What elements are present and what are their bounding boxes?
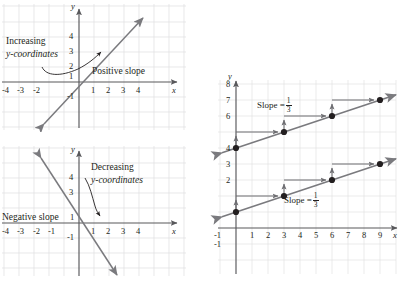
y-tick-2: 2 xyxy=(226,176,230,185)
positive-slope-figure: -4 -3 -2 1 2 3 4 4 3 2 1 -1 x y Increasi… xyxy=(0,0,200,132)
x-tick-3: 3 xyxy=(121,86,125,95)
negative-slope-svg xyxy=(0,136,200,281)
x-tick--3: -3 xyxy=(17,227,24,236)
positive-slope-annotation: Positive slope xyxy=(92,67,145,77)
x-tick--4: -4 xyxy=(2,227,9,236)
upper-step-2 xyxy=(284,116,326,130)
lower-line xyxy=(222,159,396,217)
slope-fraction-lower: 13 xyxy=(313,192,319,208)
slope-denominator-lower: 3 xyxy=(313,201,319,209)
x-tick-2: 2 xyxy=(106,227,110,236)
x-tick-3: 3 xyxy=(282,231,286,240)
increasing-y-annotation-line2: y-coordinates xyxy=(6,50,58,60)
y-tick-6: 6 xyxy=(226,112,230,121)
slope-label-upper-equals: = xyxy=(280,100,285,110)
y-tick-4: 4 xyxy=(69,173,73,182)
slope-numerator-lower: 1 xyxy=(313,192,319,200)
x-tick-2: 2 xyxy=(106,86,110,95)
x-tick-3: 3 xyxy=(121,227,125,236)
slope-one-third-figure: -1 1 2 3 4 5 6 7 8 9 8 7 6 4 3 2 -1 x y … xyxy=(200,66,404,281)
x-tick-2: 2 xyxy=(266,231,270,240)
x-tick--4: -4 xyxy=(2,86,9,95)
x-tick-5: 5 xyxy=(314,231,318,240)
slope-label-upper: Slope =13 xyxy=(257,97,292,113)
y-tick-1: 1 xyxy=(70,213,74,222)
increasing-y-annotation-line1: Increasing xyxy=(6,37,46,47)
slope-label-upper-prefix: Slope xyxy=(257,100,278,110)
x-tick-4: 4 xyxy=(136,227,140,236)
y-tick-8: 8 xyxy=(226,80,230,89)
x-tick-4: 4 xyxy=(136,86,140,95)
x-tick--2: -2 xyxy=(33,227,40,236)
y-tick--1: -1 xyxy=(67,233,74,242)
x-tick--2: -2 xyxy=(33,86,40,95)
x-tick--3: -3 xyxy=(17,86,24,95)
slope-one-third-svg xyxy=(200,66,404,281)
x-axis-label: x xyxy=(172,227,176,236)
decreasing-y-annotation-line2: y-coordinates xyxy=(91,176,143,186)
y-axis-label: y xyxy=(71,145,75,154)
upper-step-3 xyxy=(332,100,374,114)
x-axis-label: x xyxy=(172,86,176,95)
y-tick-3: 3 xyxy=(69,47,73,56)
x-tick-9: 9 xyxy=(378,231,382,240)
x-tick-1: 1 xyxy=(91,86,95,95)
y-tick-4: 4 xyxy=(69,32,73,41)
slope-denominator-upper: 3 xyxy=(286,106,292,114)
x-tick-7: 7 xyxy=(346,231,350,240)
slope-label-lower-equals: = xyxy=(307,195,312,205)
lower-step-3 xyxy=(332,164,374,178)
lower-step-1 xyxy=(236,196,278,210)
slope-label-lower-prefix: Slope xyxy=(284,195,305,205)
upper-line xyxy=(222,95,396,153)
negative-slope-figure: -4 -3 -2 -1 1 2 3 4 4 3 1 -1 x y Decreas… xyxy=(0,136,200,281)
grid-lines xyxy=(218,80,396,274)
y-tick-3: 3 xyxy=(226,160,230,169)
decreasing-y-annotation-line1: Decreasing xyxy=(91,163,134,173)
slope-label-lower: Slope =13 xyxy=(284,192,319,208)
upper-step-1 xyxy=(236,132,278,146)
y-tick-1: 1 xyxy=(69,72,73,81)
y-tick-4: 4 xyxy=(226,144,230,153)
negative-slope-annotation: Negative slope xyxy=(2,213,59,223)
x-tick-1: 1 xyxy=(91,227,95,236)
x-tick--1: -1 xyxy=(48,227,55,236)
x-tick-4: 4 xyxy=(298,231,302,240)
x-axis-label: x xyxy=(393,231,397,240)
y-tick--1: -1 xyxy=(67,92,74,101)
x-tick-6: 6 xyxy=(330,231,334,240)
slope-fraction-upper: 13 xyxy=(286,97,292,113)
y-axis-label: y xyxy=(228,72,232,81)
y-tick-7: 7 xyxy=(226,96,230,105)
slope-numerator-upper: 1 xyxy=(286,97,292,105)
y-tick--1: -1 xyxy=(214,240,221,249)
y-tick-2: 2 xyxy=(69,62,73,71)
x-tick-1: 1 xyxy=(250,231,254,240)
x-tick-8: 8 xyxy=(362,231,366,240)
y-tick-3: 3 xyxy=(69,188,73,197)
y-axis-label: y xyxy=(71,2,75,11)
